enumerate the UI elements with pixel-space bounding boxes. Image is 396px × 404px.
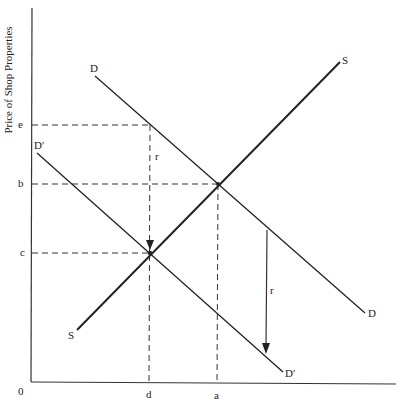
demand-curve (95, 76, 365, 313)
equilibrium-point-new (148, 251, 152, 255)
y-axis-label-text: Price of Shop Properties (2, 26, 14, 133)
supply-label-start: S (68, 330, 74, 341)
shift-arrow-right (266, 230, 267, 345)
equilibrium-point-original (216, 182, 220, 186)
origin-label: 0 (18, 386, 24, 397)
shifted-demand-label-start: D′ (34, 140, 44, 151)
shift-label-right: r (270, 285, 274, 296)
x-axis (31, 382, 396, 384)
arrow-head-right (262, 343, 270, 354)
shifted-demand-label-end: D′ (285, 368, 295, 379)
demand-label-end: D (368, 308, 376, 319)
supply-demand-diagram (0, 0, 396, 404)
arrow-head-left (146, 240, 154, 250)
guide-a-vertical (217, 184, 218, 383)
supply-curve (77, 62, 340, 330)
y-axis (31, 8, 32, 382)
tick-label-b: b (18, 178, 24, 189)
shift-label-left: r (155, 151, 159, 162)
tick-label-e: e (18, 119, 23, 130)
tick-label-c: c (20, 247, 25, 258)
demand-label-start: D (90, 63, 98, 74)
supply-label-end: S (342, 55, 348, 66)
y-axis-label: Price of Shop Properties (0, 0, 18, 160)
tick-label-d: d (146, 389, 152, 400)
tick-label-a: a (214, 390, 219, 401)
